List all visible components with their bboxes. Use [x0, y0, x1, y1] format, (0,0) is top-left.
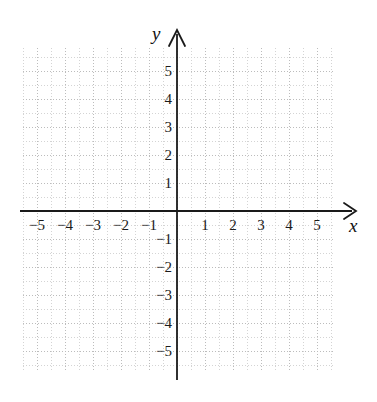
arrow-up-icon [169, 30, 185, 46]
x-axis-label: x [349, 216, 357, 235]
x-tick-label: −1 [141, 218, 157, 233]
grid-lines [23, 48, 335, 370]
coordinate-plane: −5−4−3−2−11234554321−1−2−3−4−5 y x [0, 0, 377, 402]
x-tick-label: 2 [229, 218, 237, 233]
y-tick-label: −2 [156, 260, 172, 275]
y-tick-label: 1 [165, 176, 173, 191]
x-tick-label: 1 [201, 218, 209, 233]
y-axis-label: y [152, 24, 160, 43]
x-tick-label: −3 [85, 218, 101, 233]
y-tick-label: 3 [165, 120, 173, 135]
x-tick-label: 3 [257, 218, 265, 233]
x-tick-label: 5 [313, 218, 321, 233]
y-tick-label: 4 [165, 92, 173, 107]
grid-area [23, 48, 335, 370]
y-tick-label: −1 [156, 232, 172, 247]
x-tick-label: −5 [29, 218, 45, 233]
y-tick-label: 2 [165, 148, 173, 163]
y-tick-label: −3 [156, 288, 172, 303]
x-tick-label: 4 [285, 218, 293, 233]
y-tick-label: 5 [165, 64, 173, 79]
y-tick-label: −4 [156, 316, 172, 331]
x-tick-label: −4 [57, 218, 73, 233]
x-tick-label: −2 [113, 218, 129, 233]
y-tick-label: −5 [156, 344, 172, 359]
